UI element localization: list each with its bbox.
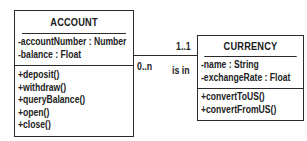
class-currency: CURRENCY -name : String -exchangeRate : … <box>197 35 304 121</box>
attribute-name: -name : String <box>201 59 286 72</box>
operation-convert-from-us: +convertFromUS() <box>201 104 286 117</box>
multiplicity-currency: 1..1 <box>176 41 191 52</box>
attribute-account-number: -accountNumber : Number <box>18 36 114 49</box>
operation-query-balance: +queryBalance() <box>18 94 114 107</box>
operations-section-currency: +convertToUS() +convertFromUS() <box>198 89 303 120</box>
multiplicity-account: 0..n <box>137 61 152 72</box>
class-name-currency: CURRENCY <box>204 36 296 57</box>
class-name-account: ACCOUNT <box>22 11 126 34</box>
operation-open: +open() <box>18 107 114 120</box>
attribute-exchange-rate: -exchangeRate : Float <box>201 72 286 85</box>
operation-close: +close() <box>18 119 114 132</box>
operation-convert-to-us: +convertToUS() <box>201 91 286 104</box>
class-account: ACCOUNT -accountNumber : Number -balance… <box>14 10 134 137</box>
operation-withdraw: +withdraw() <box>18 82 114 95</box>
operation-deposit: +deposit() <box>18 69 114 82</box>
operations-section-account: +deposit() +withdraw() +queryBalance() +… <box>15 66 133 136</box>
attribute-balance: -balance : Float <box>18 49 114 62</box>
association-name: is in <box>172 65 190 76</box>
association-line <box>133 55 198 56</box>
attributes-section-currency: -name : String -exchangeRate : Float <box>198 57 303 89</box>
attributes-section-account: -accountNumber : Number -balance : Float <box>15 34 133 66</box>
